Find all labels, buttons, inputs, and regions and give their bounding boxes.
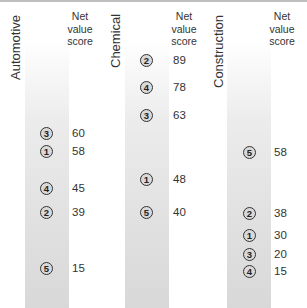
category-label: Construction [211,15,226,88]
value-label: 58 [72,145,85,157]
rank-marker: 1 [40,145,53,158]
rank-marker: 5 [243,146,256,159]
rank-marker: 2 [40,206,53,219]
value-label: 15 [72,262,85,274]
value-label: 38 [274,207,287,219]
panel-chemical: Chemical Net value score 2 89 4 78 3 63 … [100,0,200,308]
value-header: Net value score [262,10,302,48]
rank-marker: 3 [40,127,53,140]
value-label: 63 [173,109,186,121]
value-label: 58 [274,146,287,158]
panel-automotive: Automotive Net value score 3 60 1 58 4 4… [0,0,100,308]
value-label: 48 [173,173,186,185]
rank-marker: 3 [243,248,256,261]
category-label: Chemical [108,14,123,68]
rank-marker: 1 [243,229,256,242]
value-label: 15 [274,265,287,277]
rank-marker: 1 [140,173,153,186]
rank-marker: 3 [140,109,153,122]
category-label: Automotive [8,15,23,80]
value-label: 89 [173,54,186,66]
rank-marker: 4 [243,265,256,278]
value-header: Net value score [164,10,204,48]
rank-marker: 4 [140,81,153,94]
value-label: 30 [274,229,287,241]
rank-marker: 2 [243,207,256,220]
value-label: 78 [173,81,186,93]
value-label: 60 [72,127,85,139]
value-label: 40 [173,206,186,218]
rank-marker: 4 [40,182,53,195]
value-label: 39 [72,206,85,218]
rank-marker: 2 [140,54,153,67]
panel-construction: Construction Net value score 5 58 2 38 1… [200,0,300,308]
rank-marker: 5 [40,262,53,275]
value-header: Net value score [60,10,100,48]
value-label: 20 [274,248,287,260]
rank-marker: 5 [140,206,153,219]
value-label: 45 [72,182,85,194]
